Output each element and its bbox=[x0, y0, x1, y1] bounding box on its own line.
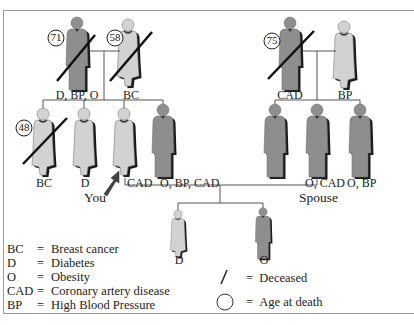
person-gen1-right-mother bbox=[333, 21, 358, 90]
condition-label: BC bbox=[123, 89, 139, 101]
person-spouse bbox=[306, 104, 331, 179]
legend-row: BP=High Blood Pressure bbox=[7, 298, 170, 312]
legend-row: CAD=Coronary artery disease bbox=[7, 284, 170, 298]
legend-age-circle-icon bbox=[217, 294, 233, 310]
condition-label: O, CAD bbox=[305, 177, 345, 189]
condition-label: O, BP, CAD bbox=[160, 177, 219, 189]
condition-label: CAD bbox=[277, 89, 302, 101]
legend-abbreviations: BC=Breast cancer D=Diabetes O=Obesity CA… bbox=[7, 242, 170, 312]
person-gen2-right-brother-2 bbox=[349, 104, 374, 179]
condition-label: BC bbox=[36, 177, 52, 189]
condition-label: D bbox=[175, 254, 184, 266]
legend-deceased-slash-icon bbox=[221, 270, 227, 284]
condition-label: D bbox=[81, 177, 90, 189]
person-gen2-sister-2 bbox=[73, 108, 98, 177]
person-gen2-right-brother-1 bbox=[264, 104, 289, 179]
condition-label: BP bbox=[338, 89, 353, 101]
spouse-label: Spouse bbox=[299, 191, 338, 205]
age-at-death-label: 58 bbox=[110, 32, 121, 43]
age-at-death-label: 71 bbox=[51, 32, 62, 43]
condition-label: D, BP, O bbox=[56, 89, 99, 101]
condition-label: O, BP bbox=[347, 177, 376, 189]
person-you bbox=[113, 108, 138, 177]
person-gen3-daughter bbox=[170, 210, 187, 258]
you-label: You bbox=[84, 191, 106, 205]
legend-age-at-death: = Age at death bbox=[246, 295, 322, 310]
legend-row: BC=Breast cancer bbox=[7, 242, 170, 256]
legend-row: O=Obesity bbox=[7, 270, 170, 284]
legend-row: D=Diabetes bbox=[7, 256, 170, 270]
person-gen2-brother bbox=[152, 104, 177, 179]
you-arrow-icon bbox=[104, 171, 119, 196]
condition-label: CAD bbox=[127, 177, 152, 189]
condition-label: O bbox=[260, 254, 269, 266]
legend-deceased: = Deceased bbox=[246, 271, 307, 286]
age-at-death-label: 75 bbox=[267, 35, 278, 46]
age-at-death-label: 48 bbox=[19, 122, 30, 133]
person-gen1-left-mother bbox=[117, 19, 142, 88]
